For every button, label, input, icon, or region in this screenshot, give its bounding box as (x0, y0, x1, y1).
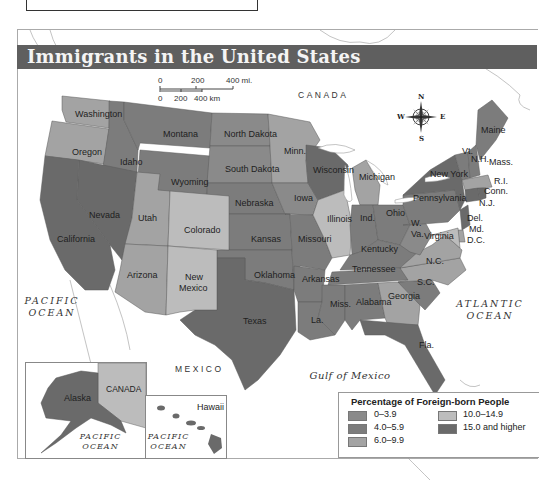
label-hawaii: Hawaii (197, 402, 224, 412)
label-louisiana: La. (311, 315, 324, 325)
label-kentucky: Kentucky (361, 244, 398, 254)
state-connecticut (465, 188, 480, 202)
scale-mi-400: 400 mi. (226, 76, 252, 85)
label-california: California (57, 234, 95, 244)
label-nebraska: Nebraska (235, 198, 274, 208)
label-tennessee: Tennessee (352, 264, 396, 274)
label-florida: Fla. (419, 340, 434, 350)
scale-mi-200: 200 (191, 76, 204, 85)
legend-swatch-4.0-5.9 (348, 424, 367, 434)
label-north-dakota: North Dakota (224, 129, 277, 139)
label-connecticut: Conn. (484, 186, 508, 196)
map-title: Immigrants in the United States (27, 46, 361, 67)
label-inset-pacific-1: PACIFIC OCEAN (78, 432, 123, 452)
scale-km-0: 0 (158, 94, 162, 103)
legend: Percentage of Foreign-born People 0–3.9 … (338, 392, 539, 458)
label-inset-pacific-2: PACIFIC OCEAN (146, 432, 191, 452)
scale-mi-0: 0 (158, 76, 162, 85)
label-georgia: Georgia (388, 291, 420, 301)
label-dc: D.C. (467, 235, 485, 245)
label-rhode-island: R.I. (494, 176, 508, 186)
label-atlantic-ocean: ATLANTIC OCEAN (455, 298, 525, 322)
label-arkansas: Arkansas (302, 274, 340, 284)
label-washington: Washington (75, 109, 122, 119)
label-south-carolina: S.C. (417, 277, 435, 287)
label-south-dakota: South Dakota (225, 164, 280, 174)
legend-swatch-15-plus (438, 424, 457, 434)
scale-km-200: 200 (174, 94, 187, 103)
compass-w: W (397, 112, 405, 122)
label-west-virginia-2: Va. (411, 229, 424, 239)
label-michigan: Michigan (359, 172, 395, 182)
compass-n: N (418, 92, 424, 102)
label-new-york: New York (430, 169, 468, 179)
compass-rose-icon (405, 101, 437, 133)
scale-km-400: 400 km (194, 94, 220, 103)
state-kansas (225, 214, 292, 250)
label-virginia: Virginia (424, 231, 454, 241)
label-texas: Texas (243, 316, 267, 326)
label-canada: CANADA (298, 90, 348, 100)
legend-title: Percentage of Foreign-born People (351, 396, 509, 407)
label-iowa: Iowa (294, 193, 313, 203)
legend-label-0-3.9: 0–3.9 (374, 409, 397, 419)
label-colorado: Colorado (184, 225, 221, 235)
state-florida (360, 320, 445, 395)
label-arizona: Arizona (127, 270, 158, 280)
label-idaho: Idaho (120, 157, 143, 167)
compass-e: E (440, 112, 445, 122)
label-mississippi: Miss. (330, 299, 351, 309)
scale-bar (160, 86, 233, 92)
label-wisconsin: Wisconsin (313, 165, 354, 175)
label-gulf-of-mexico: Gulf of Mexico (305, 370, 395, 382)
label-minnesota: Minn. (284, 146, 306, 156)
label-ohio: Ohio (386, 208, 405, 218)
label-oklahoma: Oklahoma (254, 270, 295, 280)
label-alabama: Alabama (356, 297, 392, 307)
label-oregon: Oregon (72, 147, 102, 157)
compass-s: S (419, 134, 424, 144)
state-colorado (168, 191, 229, 250)
legend-label-4.0-5.9: 4.0–5.9 (374, 422, 404, 432)
label-new-jersey: N.J. (479, 198, 495, 208)
label-new-mexico-1: New (185, 272, 203, 282)
label-west-virginia-1: W. (411, 218, 422, 228)
legend-swatch-6.0-9.9 (348, 437, 367, 447)
label-new-hampshire: N.H. (471, 154, 489, 164)
label-maine: Maine (481, 125, 506, 135)
label-delaware: Del. (467, 213, 483, 223)
label-massachusetts: Mass. (489, 157, 513, 167)
label-new-mexico-2: Mexico (179, 283, 208, 293)
label-mexico: MEXICO (175, 364, 224, 374)
legend-label-10.0-14.9: 10.0–14.9 (463, 409, 503, 419)
legend-swatch-10.0-14.9 (438, 411, 457, 421)
label-missouri: Missouri (298, 234, 332, 244)
state-montana (124, 102, 212, 150)
label-north-carolina: N.C. (426, 256, 444, 266)
label-maryland: Md. (469, 224, 484, 234)
label-kansas: Kansas (251, 234, 281, 244)
label-wyoming: Wyoming (171, 177, 208, 187)
label-inset-canada: CANADA (106, 384, 141, 394)
label-indiana: Ind. (360, 213, 375, 223)
state-arkansas (294, 266, 325, 302)
label-utah: Utah (138, 213, 157, 223)
legend-label-6.0-9.9: 6.0–9.9 (374, 435, 404, 445)
label-alaska: Alaska (64, 393, 91, 403)
label-nevada: Nevada (89, 210, 120, 220)
label-montana: Montana (163, 129, 198, 139)
legend-label-15-plus: 15.0 and higher (463, 422, 526, 432)
label-pacific-ocean: PACIFIC OCEAN (22, 295, 82, 319)
label-pennsylvania: Pennsylvania (413, 193, 467, 203)
label-illinois: Illinois (327, 214, 352, 224)
legend-swatch-0-3.9 (348, 411, 367, 421)
states-layer (40, 96, 508, 395)
